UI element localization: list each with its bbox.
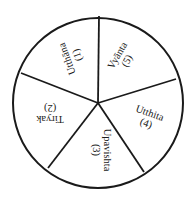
spoke-upper-left xyxy=(21,73,98,103)
segment-label: Upavishta xyxy=(102,129,113,172)
spoke-top xyxy=(98,16,99,103)
segment-upavishta: Upavishta (3) xyxy=(90,129,113,172)
spoke-upper-right xyxy=(98,79,176,103)
segment-label: Tiryak xyxy=(35,114,63,125)
segment-utthita: Utthita (4) xyxy=(130,103,166,135)
wheel-diagram: Utthāna (1) Tiryak (2) Upavishta (3) Utt… xyxy=(0,0,192,202)
segment-number: (2) xyxy=(43,102,56,114)
segment-number: (3) xyxy=(90,144,102,157)
segment-tiryak: Tiryak (2) xyxy=(35,102,63,125)
segment-vyanta: Vyānta (5) xyxy=(105,40,140,77)
segment-utthana: Utthāna (1) xyxy=(56,37,89,76)
